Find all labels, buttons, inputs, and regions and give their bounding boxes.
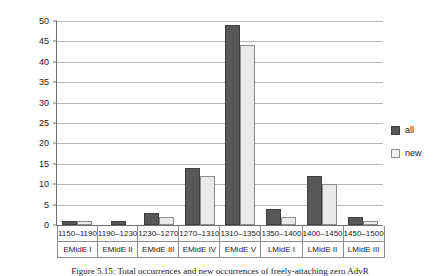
legend-swatch-new (391, 149, 400, 158)
y-tick-label: 15 (39, 159, 53, 168)
bar-new (77, 221, 92, 225)
category-phase-label: EMidE III (138, 242, 178, 257)
bar-all (348, 217, 363, 225)
category-phase-label: EMidE II (98, 242, 137, 257)
category-phase-label: EMidE IV (179, 242, 219, 257)
bar-all (307, 176, 322, 225)
category-phase-label: EMidE I (58, 242, 97, 257)
category-range-label: 1310–1350 (220, 226, 260, 242)
category-cell: 1450–1500LMidE III (344, 226, 385, 258)
bar-group (98, 21, 139, 225)
category-cell: 1350–1400LMidE I (261, 226, 302, 258)
category-cell: 1270–1310EMidE IV (179, 226, 220, 258)
y-tick-35: 35 (39, 78, 57, 87)
bar-group (179, 21, 220, 225)
y-tick-label: 45 (39, 37, 53, 46)
legend-label: new (405, 149, 422, 158)
bar-group (220, 21, 261, 225)
y-tick-25: 25 (39, 119, 57, 128)
bar-groups (57, 21, 383, 225)
legend-label: all (405, 126, 414, 135)
category-phase-label: EMidE V (220, 242, 260, 257)
y-tick-label: 40 (39, 57, 53, 66)
bar-group (139, 21, 180, 225)
category-range-label: 1450–1500 (344, 226, 384, 242)
category-range-label: 1270–1310 (179, 226, 219, 242)
bar-all (62, 221, 77, 225)
bar-new (281, 217, 296, 225)
legend-item: new (391, 149, 422, 158)
category-cell: 1190–1230EMidE II (98, 226, 138, 258)
bar-new (363, 221, 378, 225)
y-tick-15: 15 (39, 159, 57, 168)
y-tick-45: 45 (39, 37, 57, 46)
bar-all (111, 221, 126, 225)
category-cell: 1310–1350EMidE V (220, 226, 261, 258)
bar-group (302, 21, 343, 225)
figure-caption: Figure 5.15: Total occurrences and new o… (0, 266, 440, 276)
chart-figure: 05101520253035404550 1150–1190EMidE I119… (0, 0, 440, 276)
y-tick-label: 10 (39, 180, 53, 189)
plot-area (57, 21, 383, 225)
category-range-label: 1190–1230 (98, 226, 137, 242)
category-cell: 1230–1270EMidE III (138, 226, 179, 258)
legend-item: all (391, 126, 422, 135)
category-phase-label: LMidE II (303, 242, 343, 257)
bar-all (225, 25, 240, 225)
y-tick-20: 20 (39, 139, 57, 148)
category-phase-label: LMidE III (344, 242, 384, 257)
bar-new (200, 176, 215, 225)
category-cell: 1150–1190EMidE I (58, 226, 98, 258)
y-tick-30: 30 (39, 98, 57, 107)
category-range-label: 1230–1270 (138, 226, 178, 242)
bar-group (342, 21, 383, 225)
y-tick-label: 20 (39, 139, 53, 148)
y-tick-40: 40 (39, 57, 57, 66)
y-tick-5: 5 (44, 200, 57, 209)
y-tick-label: 0 (44, 221, 53, 230)
category-range-label: 1350–1400 (261, 226, 301, 242)
y-tick-10: 10 (39, 180, 57, 189)
category-range-label: 1400–1450 (303, 226, 343, 242)
y-tick-label: 30 (39, 98, 53, 107)
y-tick-label: 25 (39, 119, 53, 128)
bar-all (185, 168, 200, 225)
y-tick-50: 50 (39, 17, 57, 26)
bar-group (57, 21, 98, 225)
legend-swatch-all (391, 126, 400, 135)
bar-all (144, 213, 159, 225)
bar-group (261, 21, 302, 225)
chart-legend: allnew (391, 126, 422, 158)
y-tick-label: 5 (44, 200, 53, 209)
y-tick-label: 35 (39, 78, 53, 87)
category-cell: 1400–1450LMidE II (303, 226, 344, 258)
y-axis-tick-labels: 05101520253035404550 (0, 21, 57, 225)
bar-new (159, 217, 174, 225)
y-tick-label: 50 (39, 17, 53, 26)
category-range-label: 1150–1190 (58, 226, 97, 242)
category-axis-table: 1150–1190EMidE I1190–1230EMidE II1230–12… (57, 226, 384, 258)
bar-new (322, 184, 337, 225)
category-phase-label: LMidE I (261, 242, 301, 257)
y-tick-0: 0 (44, 221, 57, 230)
bar-all (266, 209, 281, 225)
bar-new (240, 45, 255, 225)
